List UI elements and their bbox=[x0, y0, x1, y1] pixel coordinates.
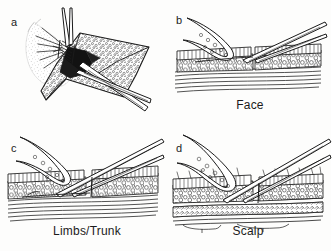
panel-d-caption: Scalp bbox=[165, 225, 331, 237]
panel-c-muscle-layer bbox=[8, 195, 158, 221]
panel-a-forceps-instrument bbox=[62, 8, 73, 47]
panel-b-caption: Face bbox=[167, 99, 333, 111]
panel-c-caption: Limbs/Trunk bbox=[4, 225, 170, 237]
panel-c: c bbox=[0, 125, 166, 251]
panel-d: d bbox=[165, 125, 331, 251]
panel-a-illustration bbox=[0, 0, 166, 126]
panel-a: a bbox=[0, 0, 166, 126]
panel-d-areolar-layer bbox=[173, 202, 323, 217]
panel-b: b bbox=[165, 0, 331, 126]
